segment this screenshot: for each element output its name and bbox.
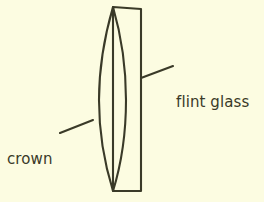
flint-glass-label: flint glass (176, 60, 249, 145)
crown-glass-label-line-1: crown (7, 151, 53, 168)
flint-glass-label-line-1: flint glass (176, 94, 249, 111)
crown-glass-label: crown glass (7, 117, 53, 202)
flint-glass-leader-line (141, 66, 173, 78)
diagram-canvas: flint glass crown glass (0, 0, 264, 202)
crown-glass-leader-line (60, 120, 93, 133)
